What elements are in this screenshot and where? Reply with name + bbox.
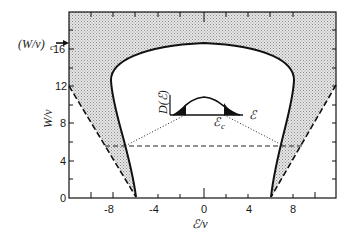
x-tick-0: 0 — [201, 203, 207, 215]
localized-region — [69, 12, 336, 197]
x-tick-neg4: -4 — [149, 203, 159, 215]
y-tick-12: 12 — [55, 80, 67, 92]
y-tick-8: 8 — [60, 117, 66, 129]
projection-left — [125, 115, 185, 146]
y-tick-4: 4 — [60, 155, 66, 167]
y-tick-0: 0 — [60, 192, 66, 204]
critical-marker-subscript: c — [50, 42, 54, 52]
inset-x-label: ℰ — [249, 108, 258, 122]
x-tick-neg8: -8 — [104, 203, 114, 215]
inset-y-label: D(ℰ) — [156, 90, 170, 115]
critical-marker-label: (W/v) — [18, 37, 45, 51]
x-tick-4: 4 — [246, 203, 252, 215]
inset-right-tail — [224, 103, 240, 115]
inset-critical-subscript: c — [221, 121, 225, 131]
x-axis-label: ℰ/v — [192, 217, 208, 231]
phase-diagram: D(ℰ) ℰ ℰ c 16 12 8 4 0 -8 -4 0 4 8 ℰ/v W… — [0, 0, 355, 235]
mobility-edge-curve — [111, 43, 294, 197]
bottom-ticks — [91, 188, 315, 198]
x-tick-8: 8 — [290, 203, 296, 215]
y-axis-label: W/v — [41, 109, 55, 128]
